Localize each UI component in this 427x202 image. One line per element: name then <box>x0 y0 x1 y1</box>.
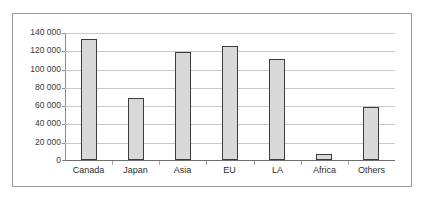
x-axis-category-label: EU <box>206 165 253 176</box>
x-axis-category-label: Japan <box>112 165 159 176</box>
x-axis-category-label: Asia <box>159 165 206 176</box>
x-axis-labels: CanadaJapanAsiaEULAAfricaOthers <box>65 14 395 188</box>
y-axis-tick-label: 100 000 <box>30 65 61 74</box>
y-axis-tick-label: 20 000 <box>35 138 61 147</box>
y-axis-tick-label: 140 000 <box>30 28 61 37</box>
y-axis-tick-label: 0 <box>56 156 61 165</box>
y-axis-tick-label: 40 000 <box>35 119 61 128</box>
y-axis-tick-label: 60 000 <box>35 101 61 110</box>
x-axis-category-label: LA <box>254 165 301 176</box>
y-axis-labels: 140 000120 000100 00080 00060 00040 0002… <box>13 33 61 161</box>
x-axis-category-label: Canada <box>65 165 112 176</box>
y-axis-tick-label: 120 000 <box>30 46 61 55</box>
x-axis-category-label: Others <box>348 165 395 176</box>
x-axis-category-label: Africa <box>301 165 348 176</box>
y-axis-tick-label: 80 000 <box>35 83 61 92</box>
chart-figure: 140 000120 000100 00080 00060 00040 0002… <box>12 13 412 187</box>
